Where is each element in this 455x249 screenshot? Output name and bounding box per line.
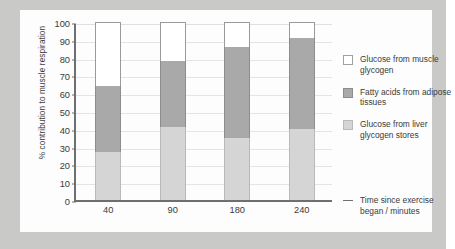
y-tick-label: 50 xyxy=(60,108,76,118)
bar-segment xyxy=(224,47,250,138)
x-axis-title-group: Time since exercise began / minutes xyxy=(343,195,455,217)
y-tick-label: 30 xyxy=(60,144,76,154)
bar-segment xyxy=(224,22,250,47)
x-tick-label: 90 xyxy=(153,205,193,215)
bar-segment xyxy=(160,61,186,127)
bar-segment xyxy=(224,138,250,200)
legend-label: Fatty acids from adipose tissues xyxy=(360,87,455,109)
x-axis-pointer-dash xyxy=(343,200,353,201)
bar-segment xyxy=(95,22,121,86)
legend-item: Glucose from liver glycogen stores xyxy=(343,119,455,141)
x-axis-title: Time since exercise began / minutes xyxy=(360,195,455,217)
y-tick-label: 20 xyxy=(60,161,76,171)
legend-item: Fatty acids from adipose tissues xyxy=(343,87,455,109)
y-tick-label: 70 xyxy=(60,72,76,82)
legend-label: Glucose from liver glycogen stores xyxy=(360,119,455,141)
y-tick-label: 0 xyxy=(65,197,76,207)
bar-segment xyxy=(160,127,186,200)
y-tick-label: 90 xyxy=(60,37,76,47)
x-tick-label: 40 xyxy=(88,205,128,215)
y-tick-label: 10 xyxy=(60,179,76,189)
legend-item: Glucose from muscle glycogen xyxy=(343,54,455,76)
x-tick-label: 180 xyxy=(217,205,257,215)
bar-segment xyxy=(289,38,315,129)
legend-label: Glucose from muscle glycogen xyxy=(360,54,455,76)
y-tick-label: 60 xyxy=(60,90,76,100)
chart-legend: Glucose from muscle glycogenFatty acids … xyxy=(343,54,455,152)
legend-swatch-icon xyxy=(343,55,353,65)
bar-180 xyxy=(224,22,250,200)
bar-segment xyxy=(95,86,121,152)
bar-segment xyxy=(289,22,315,38)
legend-swatch-icon xyxy=(343,88,353,98)
y-tick-label: 80 xyxy=(60,55,76,65)
chart-card: % contribution to muscle respiration 010… xyxy=(20,10,432,232)
bar-240 xyxy=(289,22,315,200)
legend-swatch-icon xyxy=(343,120,353,130)
y-tick-label: 40 xyxy=(60,126,76,136)
plot-area: 0102030405060708090100 4090180240 xyxy=(74,24,332,202)
bar-90 xyxy=(160,22,186,200)
y-axis-title: % contribution to muscle respiration xyxy=(38,8,47,178)
y-tick-label: 100 xyxy=(54,19,76,29)
bar-segment xyxy=(95,152,121,200)
bar-segment xyxy=(289,129,315,200)
bar-segment xyxy=(160,22,186,61)
bar-40 xyxy=(95,22,121,200)
x-tick-label: 240 xyxy=(282,205,322,215)
